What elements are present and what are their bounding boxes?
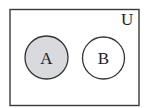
set-a-label: A — [40, 49, 53, 68]
set-b-label: B — [98, 49, 109, 68]
universe-label: U — [121, 10, 133, 29]
venn-diagram: U A B — [0, 0, 146, 108]
